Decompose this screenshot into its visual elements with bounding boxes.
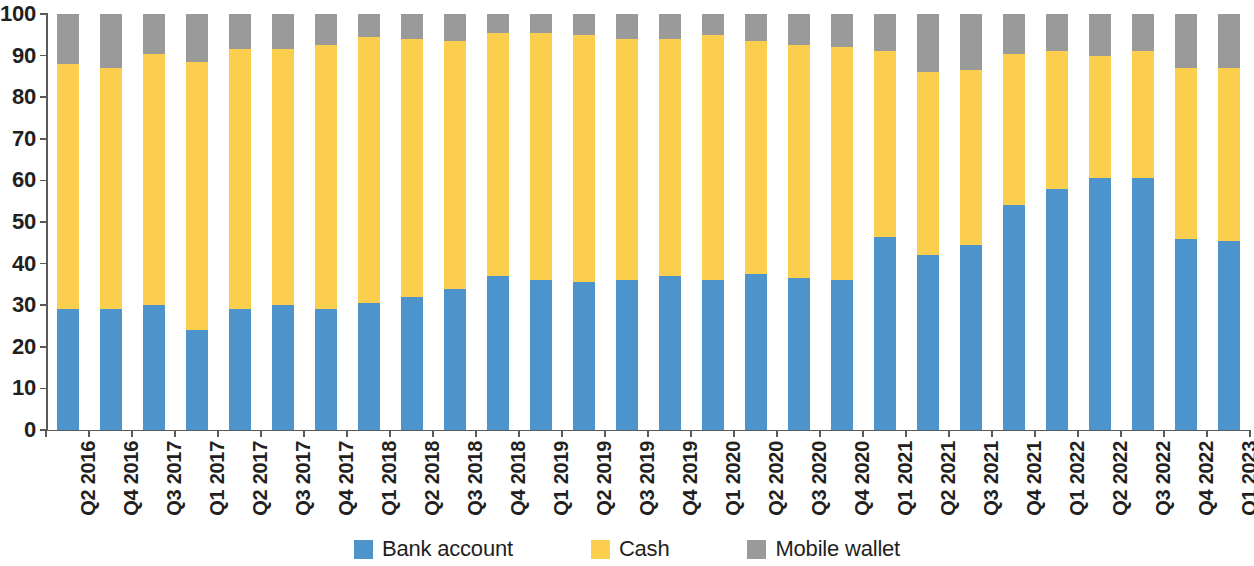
- bar-segment-mobile-wallet[interactable]: [100, 14, 122, 68]
- legend-item[interactable]: Bank account: [354, 538, 513, 560]
- bar-group[interactable]: [272, 14, 294, 430]
- bar-segment-bank-account[interactable]: [702, 280, 724, 430]
- bar-group[interactable]: [57, 14, 79, 430]
- bar-segment-cash[interactable]: [874, 51, 896, 236]
- bar-segment-bank-account[interactable]: [1175, 239, 1197, 430]
- bar-segment-mobile-wallet[interactable]: [702, 14, 724, 35]
- bar-group[interactable]: [487, 14, 509, 430]
- bar-segment-cash[interactable]: [702, 35, 724, 280]
- bar-segment-cash[interactable]: [272, 49, 294, 305]
- bar-group[interactable]: [917, 14, 939, 430]
- bar-segment-bank-account[interactable]: [143, 305, 165, 430]
- bar-group[interactable]: [745, 14, 767, 430]
- bar-segment-bank-account[interactable]: [358, 303, 380, 430]
- bar-segment-bank-account[interactable]: [1132, 178, 1154, 430]
- bar-segment-bank-account[interactable]: [831, 280, 853, 430]
- bar-segment-mobile-wallet[interactable]: [487, 14, 509, 33]
- bar-group[interactable]: [659, 14, 681, 430]
- bar-segment-mobile-wallet[interactable]: [616, 14, 638, 39]
- bar-segment-bank-account[interactable]: [1089, 178, 1111, 430]
- bar-segment-cash[interactable]: [487, 33, 509, 276]
- bar-segment-mobile-wallet[interactable]: [917, 14, 939, 72]
- bar-segment-bank-account[interactable]: [788, 278, 810, 430]
- bar-group[interactable]: [1089, 14, 1111, 430]
- bar-segment-cash[interactable]: [1089, 56, 1111, 179]
- bar-group[interactable]: [702, 14, 724, 430]
- bar-segment-mobile-wallet[interactable]: [143, 14, 165, 54]
- bar-segment-mobile-wallet[interactable]: [358, 14, 380, 37]
- bar-segment-mobile-wallet[interactable]: [659, 14, 681, 39]
- bar-segment-mobile-wallet[interactable]: [1046, 14, 1068, 51]
- bar-segment-cash[interactable]: [831, 47, 853, 280]
- bar-segment-bank-account[interactable]: [745, 274, 767, 430]
- bar-segment-mobile-wallet[interactable]: [960, 14, 982, 70]
- bar-group[interactable]: [100, 14, 122, 430]
- bar-group[interactable]: [186, 14, 208, 430]
- bar-segment-bank-account[interactable]: [100, 309, 122, 430]
- bar-segment-bank-account[interactable]: [960, 245, 982, 430]
- bar-segment-cash[interactable]: [401, 39, 423, 297]
- bar-segment-cash[interactable]: [745, 41, 767, 274]
- bar-segment-bank-account[interactable]: [874, 237, 896, 430]
- bar-segment-bank-account[interactable]: [616, 280, 638, 430]
- bar-segment-bank-account[interactable]: [272, 305, 294, 430]
- bar-segment-bank-account[interactable]: [401, 297, 423, 430]
- bar-segment-bank-account[interactable]: [530, 280, 552, 430]
- bar-segment-bank-account[interactable]: [57, 309, 79, 430]
- legend-item[interactable]: Cash: [591, 538, 670, 560]
- bar-segment-mobile-wallet[interactable]: [1175, 14, 1197, 68]
- bar-segment-bank-account[interactable]: [186, 330, 208, 430]
- bar-group[interactable]: [1046, 14, 1068, 430]
- bar-segment-mobile-wallet[interactable]: [1132, 14, 1154, 51]
- bar-segment-bank-account[interactable]: [444, 289, 466, 430]
- bar-group[interactable]: [1132, 14, 1154, 430]
- bar-segment-cash[interactable]: [100, 68, 122, 309]
- bar-segment-cash[interactable]: [315, 45, 337, 309]
- bar-segment-bank-account[interactable]: [229, 309, 251, 430]
- bar-segment-mobile-wallet[interactable]: [573, 14, 595, 35]
- bar-segment-mobile-wallet[interactable]: [315, 14, 337, 45]
- bar-segment-cash[interactable]: [917, 72, 939, 255]
- bar-segment-bank-account[interactable]: [917, 255, 939, 430]
- bar-segment-mobile-wallet[interactable]: [874, 14, 896, 51]
- bar-segment-cash[interactable]: [143, 54, 165, 306]
- bar-group[interactable]: [616, 14, 638, 430]
- bar-segment-bank-account[interactable]: [1046, 189, 1068, 430]
- bar-segment-cash[interactable]: [1132, 51, 1154, 178]
- bar-group[interactable]: [831, 14, 853, 430]
- bar-segment-cash[interactable]: [960, 70, 982, 245]
- bar-group[interactable]: [788, 14, 810, 430]
- bar-segment-cash[interactable]: [1218, 68, 1240, 241]
- bar-segment-mobile-wallet[interactable]: [530, 14, 552, 33]
- bar-group[interactable]: [874, 14, 896, 430]
- bar-group[interactable]: [1003, 14, 1025, 430]
- bar-group[interactable]: [358, 14, 380, 430]
- bar-segment-mobile-wallet[interactable]: [745, 14, 767, 41]
- bar-segment-mobile-wallet[interactable]: [444, 14, 466, 41]
- bar-segment-cash[interactable]: [1003, 54, 1025, 206]
- bar-segment-mobile-wallet[interactable]: [186, 14, 208, 62]
- bar-group[interactable]: [1175, 14, 1197, 430]
- bar-segment-mobile-wallet[interactable]: [1218, 14, 1240, 68]
- bar-segment-cash[interactable]: [1046, 51, 1068, 188]
- bar-segment-mobile-wallet[interactable]: [229, 14, 251, 49]
- bar-segment-cash[interactable]: [57, 64, 79, 309]
- bar-group[interactable]: [530, 14, 552, 430]
- bar-segment-bank-account[interactable]: [1003, 205, 1025, 430]
- bar-segment-cash[interactable]: [659, 39, 681, 276]
- bar-segment-bank-account[interactable]: [1218, 241, 1240, 430]
- bar-segment-cash[interactable]: [229, 49, 251, 309]
- bar-segment-mobile-wallet[interactable]: [788, 14, 810, 45]
- bar-segment-cash[interactable]: [530, 33, 552, 281]
- bar-segment-cash[interactable]: [788, 45, 810, 278]
- bar-segment-mobile-wallet[interactable]: [1089, 14, 1111, 56]
- bar-segment-cash[interactable]: [1175, 68, 1197, 239]
- bar-group[interactable]: [401, 14, 423, 430]
- bar-segment-cash[interactable]: [616, 39, 638, 280]
- bar-group[interactable]: [573, 14, 595, 430]
- bar-segment-cash[interactable]: [444, 41, 466, 289]
- bar-segment-mobile-wallet[interactable]: [831, 14, 853, 47]
- bar-group[interactable]: [229, 14, 251, 430]
- bar-segment-bank-account[interactable]: [573, 282, 595, 430]
- bar-segment-bank-account[interactable]: [659, 276, 681, 430]
